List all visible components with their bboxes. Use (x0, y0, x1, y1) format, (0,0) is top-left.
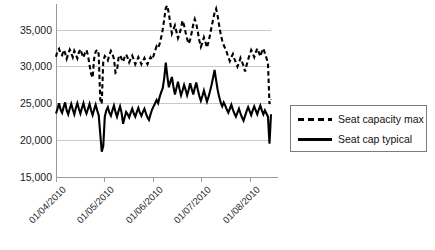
series-line-seat-capacity-max (56, 6, 271, 104)
series-canvas (56, 4, 271, 177)
y-tick-label-20000: 20,000 (4, 135, 52, 145)
plot-area (56, 4, 271, 177)
solid-line-key-icon (298, 134, 332, 144)
x-axis-line (56, 177, 278, 178)
x-tick-label-4: 01/08/2010 (210, 184, 262, 236)
x-tick-label-3: 01/07/2010 (161, 184, 213, 236)
legend-label-seat-cap-typical: Seat cap typical (338, 134, 412, 145)
x-tick-label-2: 01/06/2010 (113, 184, 165, 236)
y-tick-label-35000: 35,000 (4, 25, 52, 35)
x-tick-mark-2 (153, 178, 154, 182)
x-tick-label-1: 01/05/2010 (64, 184, 116, 236)
legend-item-seat-cap-typical: Seat cap typical (298, 132, 412, 146)
y-tick-label-25000: 25,000 (4, 98, 52, 108)
y-tick-label-30000: 30,000 (4, 61, 52, 71)
chart-legend: Seat capacity max Seat cap typical (290, 105, 427, 152)
y-tick-label-15000: 15,000 (4, 172, 52, 182)
seat-capacity-line-chart: 35,000 30,000 25,000 20,000 15,000 01/04… (0, 0, 435, 250)
dashed-line-key-icon (298, 114, 332, 124)
x-tick-mark-0 (56, 178, 57, 182)
x-tick-mark-1 (104, 178, 105, 182)
x-tick-mark-4 (250, 178, 251, 182)
x-tick-mark-3 (201, 178, 202, 182)
series-line-seat-cap-typical (56, 63, 271, 152)
legend-label-seat-capacity-max: Seat capacity max (338, 114, 424, 125)
legend-item-seat-capacity-max: Seat capacity max (298, 112, 424, 126)
